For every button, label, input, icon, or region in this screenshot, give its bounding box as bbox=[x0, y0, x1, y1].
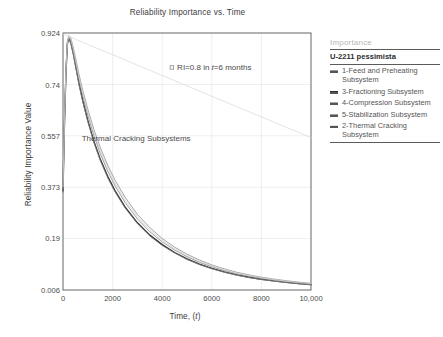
x-tick-label: 8000 bbox=[253, 294, 270, 303]
annotation-variable: t bbox=[212, 63, 214, 72]
legend-item-label: 3-Fractioning Subsystem bbox=[342, 87, 440, 96]
y-tick-label: 0.006 bbox=[41, 286, 60, 295]
y-tick-label: 0.19 bbox=[45, 234, 60, 243]
x-tick-label: 4000 bbox=[154, 294, 171, 303]
chart-figure: Reliability Importance vs. Time Reliabil… bbox=[0, 0, 443, 337]
plot-area: 0.0060.190.3730.5570.740.924 02000400060… bbox=[63, 33, 311, 290]
legend-swatch-icon bbox=[330, 87, 339, 95]
chart-title: Reliability Importance vs. Time bbox=[60, 8, 315, 17]
y-tick-label: 0.373 bbox=[41, 183, 60, 192]
annotation-markers bbox=[170, 66, 174, 70]
legend: Importance U-2211 pessimista 1-Feed and … bbox=[330, 38, 440, 143]
series-line bbox=[63, 39, 311, 285]
legend-swatch-icon bbox=[330, 121, 339, 129]
legend-subtitle: U-2211 pessimista bbox=[330, 50, 440, 64]
legend-title: Importance bbox=[330, 38, 440, 49]
legend-item-list: 1-Feed and Preheating Subsystem3-Fractio… bbox=[330, 65, 440, 139]
legend-item-label: 4-Compression Subsystem bbox=[342, 98, 440, 107]
y-tick-label: 0.74 bbox=[45, 80, 60, 89]
y-tick-label: 0.924 bbox=[41, 29, 60, 38]
legend-item-label: 5-Stabilization Subsystem bbox=[342, 110, 440, 119]
x-axis-label: Time, (t) bbox=[60, 312, 310, 321]
series-line bbox=[63, 34, 311, 138]
legend-divider-bottom bbox=[330, 142, 440, 143]
legend-swatch-icon bbox=[330, 66, 339, 74]
legend-item[interactable]: 1-Feed and Preheating Subsystem bbox=[330, 66, 440, 84]
y-tick-label: 0.557 bbox=[41, 131, 60, 140]
y-axis-label: Reliability Importance Value bbox=[24, 65, 33, 245]
x-tick-label: 10,000 bbox=[299, 294, 322, 303]
plot-annotation: Thermal Cracking Subsystems bbox=[82, 134, 191, 143]
annotation-marker-square bbox=[170, 66, 174, 70]
legend-swatch-icon bbox=[330, 98, 339, 106]
x-tick-label: 0 bbox=[61, 294, 65, 303]
x-tick-label: 2000 bbox=[104, 294, 121, 303]
plot-annotation: RI=0.8 in t=6 months bbox=[177, 63, 251, 72]
legend-item-label: 1-Feed and Preheating Subsystem bbox=[342, 66, 440, 84]
legend-swatch-icon bbox=[330, 110, 339, 118]
legend-item[interactable]: 2-Thermal Cracking Subsystem bbox=[330, 121, 440, 139]
legend-item-label: 2-Thermal Cracking Subsystem bbox=[342, 121, 440, 139]
x-tick-label: 6000 bbox=[203, 294, 220, 303]
legend-item[interactable]: 4-Compression Subsystem bbox=[330, 98, 440, 107]
x-axis-label-variable: t bbox=[195, 312, 197, 321]
legend-item[interactable]: 3-Fractioning Subsystem bbox=[330, 87, 440, 96]
data-series-group bbox=[63, 34, 311, 285]
legend-item[interactable]: 5-Stabilization Subsystem bbox=[330, 110, 440, 119]
